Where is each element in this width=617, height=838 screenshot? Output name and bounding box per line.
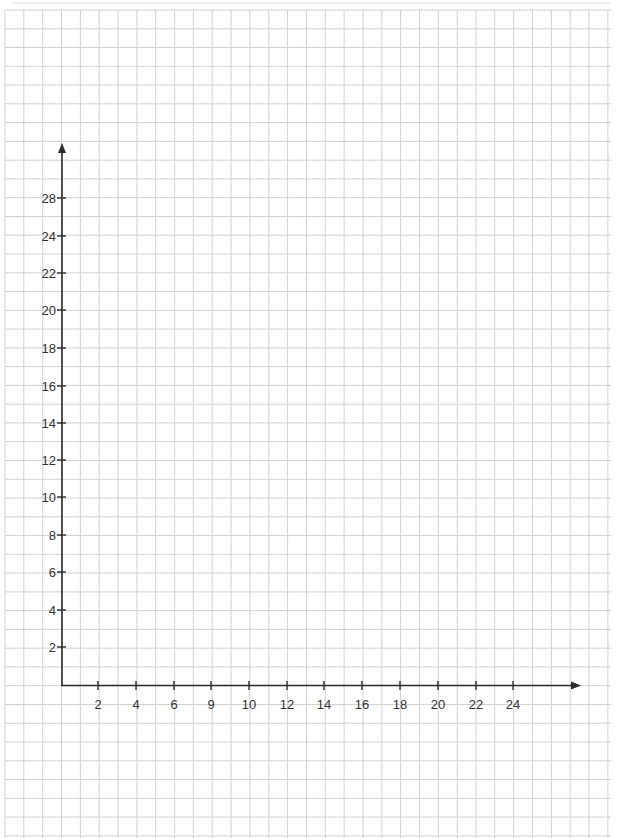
y-tick-label: 4	[49, 603, 56, 618]
y-tick-label: 8	[49, 528, 56, 543]
y-tick-label: 18	[42, 341, 56, 356]
y-tick-label: 20	[42, 303, 56, 318]
y-tick-label: 12	[42, 453, 56, 468]
x-tick-label: 2	[94, 697, 101, 712]
paper-background	[0, 0, 617, 838]
y-tick-label: 2	[49, 640, 56, 655]
y-tick-label: 6	[49, 565, 56, 580]
y-tick-label: 14	[42, 416, 56, 431]
y-tick-label: 24	[42, 229, 56, 244]
x-tick-label: 20	[431, 697, 445, 712]
y-tick-label: 16	[42, 379, 56, 394]
y-tick-label: 22	[42, 266, 56, 281]
y-tick-label: 28	[42, 191, 56, 206]
x-tick-label: 22	[469, 697, 483, 712]
x-tick-label: 16	[355, 697, 369, 712]
x-tick-label: 9	[207, 697, 214, 712]
x-tick-label: 4	[132, 697, 139, 712]
x-tick-label: 14	[317, 697, 331, 712]
x-tick-label: 6	[170, 697, 177, 712]
x-tick-label: 10	[242, 697, 256, 712]
x-tick-label: 18	[393, 697, 407, 712]
y-tick-label: 10	[42, 490, 56, 505]
x-tick-label: 12	[280, 697, 294, 712]
x-tick-label: 24	[506, 697, 520, 712]
graph-paper: 24691012141618202224 2824222018161412108…	[0, 0, 617, 838]
